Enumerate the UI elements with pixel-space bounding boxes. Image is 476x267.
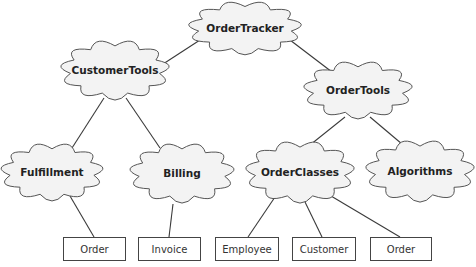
edge-ordertools-to-orderclasses [310, 117, 345, 145]
cloud-algorithms: Algorithms [366, 141, 474, 202]
box-label: Invoice [152, 244, 188, 255]
cloud-ordertools: OrderTools [304, 62, 412, 119]
cloud-customertools: CustomerTools [61, 41, 169, 100]
cloud-label: OrderClasses [261, 166, 339, 178]
cloud-label: Algorithms [388, 165, 453, 177]
cloud-fulfillment: Fulfillment [1, 144, 103, 201]
class-box-employee: Employee [216, 238, 279, 261]
cloud-orderclasses: OrderClasses [246, 142, 354, 203]
edge-orderclasses-to-customer [305, 202, 322, 237]
edge-orderclasses-to-order-2 [331, 196, 400, 237]
edge-billing-to-invoice [169, 204, 173, 237]
box-label: Order [387, 244, 416, 255]
cloud-ordertracker: OrderTracker [189, 2, 302, 55]
class-box-order-1: Order [64, 238, 126, 261]
class-box-order-2: Order [371, 238, 432, 261]
class-box-invoice: Invoice [139, 238, 201, 261]
edge-ordertracker-to-ordertools [290, 40, 332, 72]
edge-orderclasses-to-employee [248, 197, 275, 237]
edge-customertools-to-fulfillment [72, 98, 104, 148]
class-boxes: OrderInvoiceEmployeeCustomerOrder [64, 238, 432, 261]
cloud-billing: Billing [130, 144, 234, 203]
edge-fulfillment-to-order-1 [70, 196, 94, 237]
edge-ordertools-to-algorithms [370, 117, 402, 144]
package-clouds: OrderTrackerCustomerToolsOrderToolsFulfi… [1, 2, 474, 203]
box-label: Order [80, 244, 109, 255]
class-box-customer: Customer [293, 238, 356, 261]
package-diagram: OrderTrackerCustomerToolsOrderToolsFulfi… [0, 0, 476, 267]
cloud-label: CustomerTools [72, 64, 159, 76]
cloud-label: OrderTools [326, 84, 390, 96]
box-label: Employee [222, 244, 272, 255]
cloud-label: Billing [163, 167, 200, 179]
cloud-label: OrderTracker [206, 22, 284, 34]
edge-ordertracker-to-customertools [160, 40, 200, 66]
edge-customertools-to-billing [126, 98, 160, 148]
cloud-label: Fulfillment [20, 166, 83, 178]
box-label: Customer [300, 244, 349, 255]
